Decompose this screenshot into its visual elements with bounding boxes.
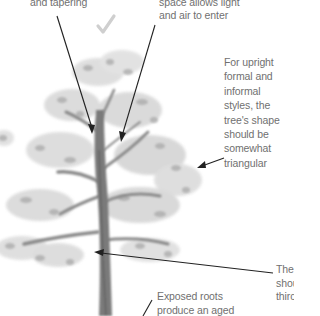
annotation-first-branch: The shou thirc xyxy=(276,263,294,304)
annotation-line: For upright xyxy=(224,55,280,69)
annotation-tree-shape: For upright formal and informal styles, … xyxy=(224,55,280,170)
arrow-first-branch xyxy=(101,253,273,273)
checkmark-icon xyxy=(98,16,114,32)
arrow-exposed-roots xyxy=(143,300,152,316)
annotation-line: space allows light xyxy=(159,0,240,9)
annotation-line: somewhat xyxy=(224,141,280,155)
arrowhead-icon xyxy=(94,249,104,256)
annotation-line: The xyxy=(276,263,294,277)
annotation-line: tree's shape xyxy=(224,113,280,127)
annotation-line: informal xyxy=(224,84,280,98)
annotation-line: shou xyxy=(276,277,294,291)
annotation-line: triangular xyxy=(224,156,280,170)
annotation-line: and tapering xyxy=(30,0,87,9)
annotation-trunk-taper: and tapering xyxy=(30,0,87,9)
annotation-line: styles, the xyxy=(224,98,280,112)
annotation-line: produce an aged xyxy=(157,304,234,316)
annotation-line: thirc xyxy=(276,290,294,304)
annotation-exposed-roots: Exposed roots produce an aged xyxy=(157,290,234,316)
annotation-line: formal and xyxy=(224,69,280,83)
annotation-line: should be xyxy=(224,127,280,141)
annotation-line: Exposed roots xyxy=(157,290,234,304)
annotation-line: and air to enter xyxy=(159,9,240,22)
annotation-canopy-space: space allows light and air to enter xyxy=(159,0,240,22)
arrowhead-icon xyxy=(197,161,206,168)
